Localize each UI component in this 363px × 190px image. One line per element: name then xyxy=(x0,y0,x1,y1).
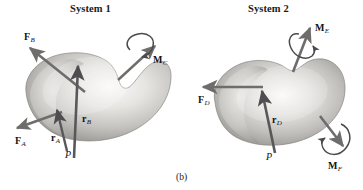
system-2-point-p-label: P xyxy=(266,152,272,162)
moment-c-curl xyxy=(127,34,153,57)
moment-c-label: MC xyxy=(153,55,167,67)
figure-svg xyxy=(0,0,363,190)
system-2-body xyxy=(214,59,345,145)
force-b-label: FB xyxy=(24,32,35,44)
system-1-point-p-label: P xyxy=(65,150,71,160)
position-a-label: rA xyxy=(51,133,60,145)
system-1-title: System 1 xyxy=(70,3,111,14)
position-d-label: rD xyxy=(272,115,282,127)
moment-f-label: MF xyxy=(328,161,342,173)
position-b-label: rB xyxy=(82,114,91,126)
figure-container: System 1 System 2 FB FA MC rA rB P FD ME… xyxy=(0,0,363,190)
moment-f-curl xyxy=(322,124,350,154)
force-d-label: FD xyxy=(198,95,209,107)
system-2-title: System 2 xyxy=(248,3,289,14)
force-a-label: FA xyxy=(15,136,26,148)
moment-e-label: ME xyxy=(315,23,329,35)
figure-caption: (b) xyxy=(176,172,187,182)
